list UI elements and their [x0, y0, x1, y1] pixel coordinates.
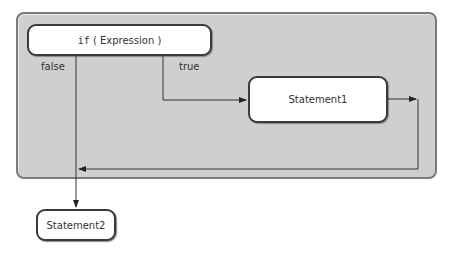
connector-lines [0, 0, 454, 255]
